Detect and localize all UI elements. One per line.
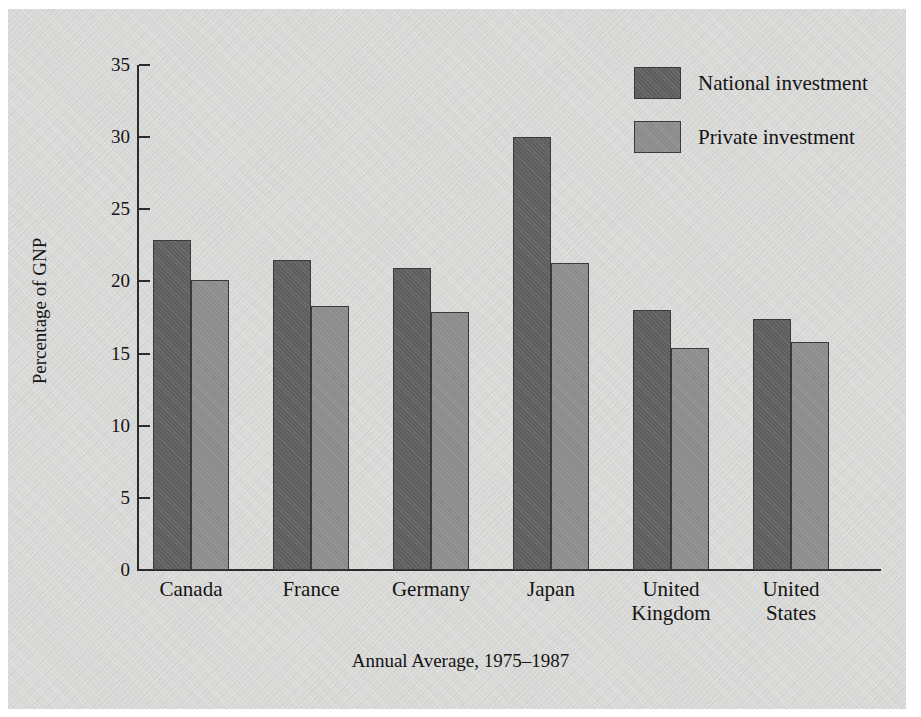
bar: [273, 260, 311, 570]
y-tick-label: 35: [88, 54, 130, 76]
y-tick-mark: [139, 136, 150, 138]
y-axis-line: [137, 65, 139, 571]
y-axis-title: Percentage of GNP: [29, 201, 51, 421]
y-tick-label: 10: [88, 415, 130, 437]
bar: [513, 137, 551, 570]
bar: [551, 263, 589, 570]
bar: [191, 280, 229, 570]
bar: [791, 342, 829, 570]
bar: [671, 348, 709, 570]
y-tick-label: 5: [88, 487, 130, 509]
legend-swatch-icon: [634, 67, 681, 99]
y-tick-mark: [139, 425, 150, 427]
x-tick-label: Germany: [361, 578, 501, 602]
y-tick-mark: [139, 353, 150, 355]
legend-swatch-icon: [634, 121, 681, 153]
x-tick-label: Japan: [481, 578, 621, 602]
chart-figure: 05101520253035 CanadaFranceGermanyJapanU…: [0, 0, 921, 717]
y-tick-mark: [139, 497, 150, 499]
x-tick-label: United States: [721, 578, 861, 625]
y-tick-label: 30: [88, 126, 130, 148]
legend-label: Private investment: [698, 125, 855, 150]
y-tick-label: 20: [88, 270, 130, 292]
legend-item: National investment: [634, 67, 868, 99]
x-tick-label: United Kingdom: [601, 578, 741, 625]
bar: [633, 310, 671, 570]
y-tick-mark: [139, 569, 150, 571]
y-tick-label: 15: [88, 343, 130, 365]
bar: [753, 319, 791, 570]
legend-item: Private investment: [634, 121, 868, 153]
y-tick-label: 25: [88, 198, 130, 220]
bar: [393, 268, 431, 570]
x-axis-title: Annual Average, 1975–1987: [0, 650, 921, 672]
y-tick-mark: [139, 280, 150, 282]
bar: [311, 306, 349, 570]
y-tick-mark: [139, 64, 150, 66]
chart-legend: National investmentPrivate investment: [634, 67, 868, 175]
x-tick-label: Canada: [121, 578, 261, 602]
x-tick-label: France: [241, 578, 381, 602]
plot-area: 05101520253035 CanadaFranceGermanyJapanU…: [0, 0, 921, 717]
legend-label: National investment: [698, 71, 868, 96]
bar: [153, 240, 191, 570]
y-tick-mark: [139, 208, 150, 210]
bar: [431, 312, 469, 570]
